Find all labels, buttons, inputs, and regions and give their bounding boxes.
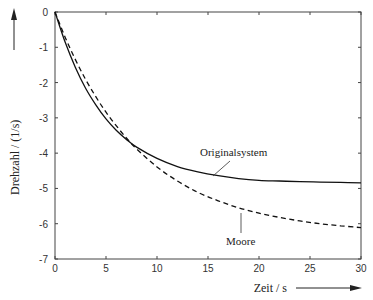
x-tick-label: 30	[355, 263, 367, 274]
y-axis-ticks: 0-1-2-3-4-5-6-7	[39, 7, 361, 265]
x-axis-arrow-icon	[296, 285, 362, 291]
moore-series-line	[55, 12, 361, 228]
plot-frame	[55, 12, 361, 259]
y-tick-label: -2	[39, 78, 48, 89]
y-tick-label: 0	[42, 7, 48, 18]
x-tick-label: 0	[52, 263, 58, 274]
originalsystem-leader-line	[213, 161, 230, 176]
y-axis-title: Drehzahl / (1/s)	[8, 120, 22, 195]
y-tick-label: -6	[39, 219, 48, 230]
x-axis-title: Zeit / s	[254, 281, 288, 295]
y-tick-label: -7	[39, 254, 48, 265]
x-tick-label: 25	[304, 263, 316, 274]
moore-annotation: Moore	[226, 235, 255, 247]
y-tick-label: -3	[39, 113, 48, 124]
x-axis-ticks: 051015202530	[52, 12, 367, 274]
x-tick-label: 20	[253, 263, 265, 274]
series-group	[55, 12, 361, 228]
y-tick-label: -4	[39, 148, 48, 159]
line-chart: 051015202530 0-1-2-3-4-5-6-7 Originalsys…	[0, 0, 373, 300]
x-tick-label: 5	[103, 263, 109, 274]
originalsystem-annotation: Originalsystem	[200, 146, 268, 158]
y-tick-label: -5	[39, 183, 48, 194]
x-tick-label: 15	[202, 263, 214, 274]
y-tick-label: -1	[39, 42, 48, 53]
x-tick-label: 10	[151, 263, 163, 274]
y-axis-arrow-icon	[11, 8, 17, 50]
